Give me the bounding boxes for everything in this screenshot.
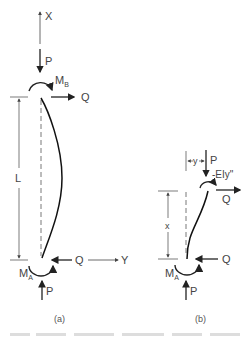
y-axis-label: Y [121, 254, 129, 266]
shear-top-label-b: Q [222, 193, 231, 205]
internal-moment-label: -EIy" [212, 169, 234, 180]
panel-a-caption: (a) [54, 314, 65, 324]
moment-a-label: MA [19, 267, 33, 281]
shear-top-label: Q [81, 91, 90, 103]
buckled-column-curve [41, 98, 62, 258]
moment-b-label: MB [55, 74, 69, 88]
load-top-label: P [45, 55, 52, 67]
shear-bottom-label: Q [75, 254, 84, 266]
deflection-label: y [193, 156, 198, 166]
buckled-segment-curve [187, 191, 208, 259]
panel-a: X P MB Q L Q Y MA P (a) [10, 10, 129, 324]
distance-label: x [165, 221, 170, 231]
load-top-label-b: P [210, 154, 217, 166]
cutoff-caption-fragments [10, 333, 240, 336]
load-bottom-label-b: P [190, 285, 197, 297]
load-bottom-label: P [46, 285, 53, 297]
panel-b: y P -EIy" Q x Q MA P (b) [158, 150, 240, 324]
column-buckling-diagram: X P MB Q L Q Y MA P (a) [0, 0, 247, 337]
x-axis-label: X [45, 10, 53, 22]
moment-b-arc [29, 83, 52, 91]
shear-bottom-label-b: Q [222, 253, 231, 265]
panel-b-caption: (b) [195, 314, 206, 324]
internal-moment-arc [200, 182, 216, 188]
moment-a-label-b: MA [165, 267, 179, 281]
length-label: L [15, 172, 21, 184]
